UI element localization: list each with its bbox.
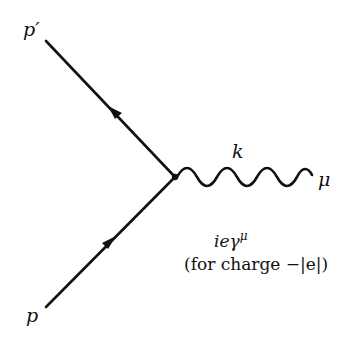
- photon-wavy-line: [177, 168, 312, 186]
- feynman-diagram: [0, 0, 352, 338]
- charge-note: (for charge −|e|): [184, 256, 328, 273]
- vertex-dot: [172, 174, 178, 180]
- vertex-factor-main: ieγ: [214, 231, 240, 251]
- vertex-factor-superscript: μ: [240, 229, 248, 243]
- label-mu: μ: [318, 170, 330, 189]
- label-p: p: [26, 306, 38, 325]
- label-k: k: [232, 142, 244, 161]
- vertex-factor: ieγμ: [214, 230, 247, 250]
- label-p-prime: p′: [23, 20, 39, 39]
